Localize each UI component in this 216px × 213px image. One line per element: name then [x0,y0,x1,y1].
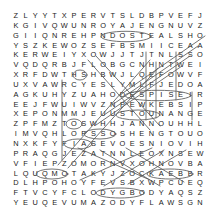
grid-cell: D [108,31,118,41]
grid-cell: I [30,21,40,31]
grid-cell: K [147,100,157,110]
letter-grid: ZLYYTXPERVTSLDBPVEFJKGIVQWUNROYAJENGNUVZ… [11,11,205,208]
grid-cell: E [166,80,176,90]
grid-cell: U [108,109,118,119]
grid-cell: B [185,169,195,179]
grid-cell: O [118,31,128,41]
grid-cell: X [11,109,21,119]
grid-cell: H [69,70,79,80]
grid-cell: S [118,109,128,119]
grid-row: XRFDWTHSHBWJLQEFOWVF [11,70,205,80]
grid-cell: P [147,90,157,100]
grid-cell: L [21,11,31,21]
grid-cell: A [166,188,176,198]
grid-cell: B [185,159,195,169]
grid-cell: E [50,41,60,51]
grid-cell: C [127,60,137,70]
grid-cell: B [176,169,186,179]
grid-cell: S [89,129,99,139]
grid-cell: I [195,60,205,70]
grid-cell: E [89,109,99,119]
grid-cell: P [50,159,60,169]
grid-cell: M [40,119,50,129]
grid-cell: A [30,149,40,159]
grid-cell: F [21,159,31,169]
grid-cell: T [127,50,137,60]
grid-cell: L [79,188,89,198]
grid-cell: O [137,109,147,119]
grid-cell: N [147,129,157,139]
grid-cell: A [195,80,205,90]
grid-cell: V [185,70,195,80]
grid-row: KGIVQWUNROYAJENGNUVZ [11,21,205,31]
grid-cell: R [195,169,205,179]
grid-cell: L [127,149,137,159]
grid-cell: L [166,50,176,60]
grid-cell: V [98,11,108,21]
grid-cell: N [166,149,176,159]
grid-cell: F [59,139,69,149]
grid-row: GIIQNREHPNDOSTEALSHO [11,31,205,41]
grid-cell: H [89,70,99,80]
grid-cell: F [11,188,21,198]
grid-cell: G [50,149,60,159]
grid-row: YEUQEVUMAZODYFLAWSGN [11,198,205,208]
grid-cell: A [89,149,99,159]
grid-cell: O [108,90,118,100]
grid-cell: N [137,119,147,129]
grid-cell: O [89,159,99,169]
grid-cell: O [147,149,157,159]
grid-cell: Q [40,198,50,208]
grid-cell: W [50,80,60,90]
grid-cell: J [108,169,118,179]
grid-cell: A [118,21,128,31]
grid-cell: Z [195,188,205,198]
grid-cell: E [50,50,60,60]
grid-cell: O [137,159,147,169]
grid-cell: N [147,139,157,149]
grid-cell: O [118,139,128,149]
grid-cell: A [40,80,50,90]
grid-cell: W [50,100,60,110]
grid-cell: V [176,139,186,149]
grid-cell: Y [40,11,50,21]
grid-cell: F [30,119,40,129]
grid-cell: X [79,50,89,60]
grid-cell: V [185,21,195,31]
grid-cell: S [118,129,128,139]
grid-cell: H [176,119,186,129]
grid-cell: P [30,109,40,119]
grid-cell: U [30,198,40,208]
grid-cell: I [156,90,166,100]
grid-cell: Z [79,41,89,51]
grid-cell: N [195,198,205,208]
grid-cell: J [79,109,89,119]
grid-cell: N [156,159,166,169]
grid-cell: B [108,60,118,70]
grid-cell: O [50,178,60,188]
grid-cell: V [30,129,40,139]
grid-cell: Z [30,41,40,51]
grid-cell: Q [40,60,50,70]
grid-cell: A [156,169,166,179]
grid-cell: M [127,80,137,90]
grid-cell: R [21,70,31,80]
grid-cell: L [195,119,205,129]
grid-cell: N [50,109,60,119]
grid-cell: N [176,109,186,119]
grid-cell: O [69,178,79,188]
grid-cell: O [108,198,118,208]
grid-cell: X [59,11,69,21]
grid-cell: T [59,119,69,129]
grid-cell: W [176,70,186,80]
grid-cell: W [166,198,176,208]
grid-cell: W [59,21,69,31]
grid-cell: D [11,178,21,188]
grid-cell: L [147,198,157,208]
grid-cell: Q [21,169,31,179]
grid-cell: E [176,41,186,51]
grid-cell: J [118,70,128,80]
grid-cell: L [166,31,176,41]
grid-cell: Z [69,90,79,100]
grid-cell: E [127,100,137,110]
